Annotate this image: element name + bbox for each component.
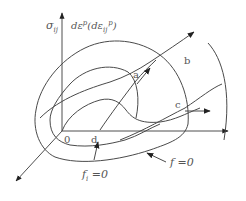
point-d-label: d: [91, 134, 98, 145]
point-b-label: b: [184, 55, 190, 66]
right-arc: [208, 43, 227, 140]
inner-surface-label: fi =0: [81, 168, 108, 183]
diagonal-axis: [16, 131, 62, 181]
point-a-label: a: [133, 69, 139, 80]
point-c-label: c: [175, 99, 181, 110]
strain-increment-label: dεp(dεijp): [71, 19, 117, 34]
arrow-outer-surface: [147, 153, 166, 162]
origin-label: 0: [64, 134, 70, 145]
yield-surface-diagram: σij dεp(dεijp) 0 a b c d f =0 fi =0: [0, 0, 246, 201]
outer-surface-label: f =0: [169, 156, 194, 169]
curve-through-c: [120, 84, 222, 140]
sigma-label: σij: [46, 19, 59, 34]
